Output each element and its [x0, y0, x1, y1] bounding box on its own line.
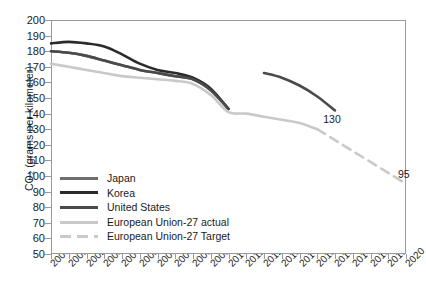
y-axis-tick-label: 70 [21, 217, 45, 228]
legend-item[interactable]: United States [60, 200, 230, 215]
y-axis-tick-label: 150 [21, 93, 45, 104]
legend-label: European Union-27 Target [107, 231, 230, 242]
legend-label: Korea [107, 188, 135, 199]
y-axis-tick-label: 90 [21, 186, 45, 197]
y-axis-tick-label: 60 [21, 233, 45, 244]
y-axis-tick-label: 190 [21, 30, 45, 41]
legend-label: Japan [107, 173, 136, 184]
y-axis-tick-label: 200 [21, 15, 45, 26]
legend-swatch-3 [60, 206, 98, 209]
line-chart: CO2 (grams per kilometer) 20019018017016… [0, 0, 426, 299]
data-point-label: 95 [398, 168, 410, 180]
chart-legend: JapanKoreaUnited StatesEuropean Union-27… [60, 171, 230, 244]
y-axis-tick-label: 140 [21, 108, 45, 119]
legend-item[interactable]: European Union-27 Target [60, 229, 230, 244]
y-axis-tick-label: 50 [21, 249, 45, 260]
data-point-label: 130 [323, 113, 341, 125]
y-axis-tick-label: 180 [21, 46, 45, 57]
x-axis-tick-label: 2020 [403, 245, 426, 269]
legend-swatch-5 [60, 235, 98, 238]
y-axis-tick-label: 80 [21, 202, 45, 213]
legend-swatch-2 [60, 191, 98, 194]
legend-item[interactable]: Korea [60, 186, 230, 201]
legend-item[interactable]: European Union-27 actual [60, 215, 230, 230]
legend-swatch-1 [60, 177, 98, 180]
y-axis-tick-label: 100 [21, 171, 45, 182]
y-axis-tick-label: 170 [21, 61, 45, 72]
legend-label: United States [107, 202, 170, 213]
y-axis-tick-label: 110 [21, 155, 45, 166]
legend-item[interactable]: Japan [60, 171, 230, 186]
y-axis-tick-label: 160 [21, 77, 45, 88]
y-axis-tick-label: 120 [21, 139, 45, 150]
legend-label: European Union-27 actual [107, 217, 229, 228]
legend-swatch-4 [60, 221, 98, 224]
y-axis-tick-label: 130 [21, 124, 45, 135]
